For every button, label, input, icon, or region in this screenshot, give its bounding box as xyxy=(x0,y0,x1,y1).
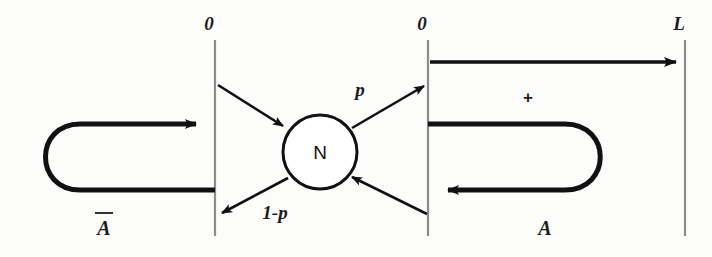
middle-to-node-arrow xyxy=(352,177,427,214)
left-region-label: A xyxy=(95,217,110,239)
right-feedback-loop xyxy=(428,124,600,190)
diagram-canvas: N 0 0 L p 1-p + A A xyxy=(0,0,712,257)
plus-sign-label: + xyxy=(523,88,533,107)
arrival-to-node-arrow xyxy=(218,85,283,126)
left-boundary-label: 0 xyxy=(204,13,214,34)
node-label: N xyxy=(313,142,327,163)
left-region-label-group: A xyxy=(95,213,113,239)
right-boundary-label: L xyxy=(672,13,685,34)
branch-1-minus-p-label: 1-p xyxy=(262,202,287,223)
diagram-svg: N 0 0 L p 1-p + A A xyxy=(0,0,712,257)
branch-p-label: p xyxy=(353,79,365,100)
left-feedback-loop xyxy=(46,124,216,190)
right-region-label: A xyxy=(536,217,551,239)
middle-boundary-label: 0 xyxy=(417,13,427,34)
